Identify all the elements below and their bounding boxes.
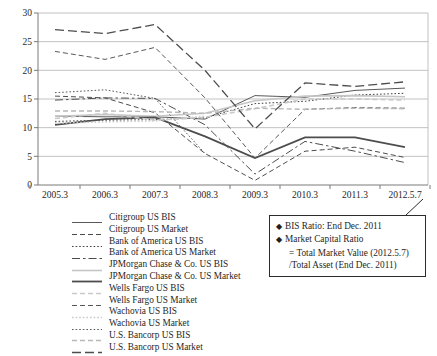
x-tick-label: 2007.3 <box>142 190 168 200</box>
annotation-line: ◆BIS Ratio: End Dec. 2011 <box>276 220 422 233</box>
legend-item: Wells Fargo US Market <box>72 295 241 307</box>
series-line-7 <box>55 47 405 158</box>
legend-item: Bank of America US Market <box>72 247 241 259</box>
legend-label: Citigroup US Market <box>109 224 188 236</box>
legend-label: Bank of America US BIS <box>109 236 204 248</box>
legend-line-sample-icon <box>72 213 102 222</box>
y-tick-label: 10 <box>23 123 33 133</box>
legend-item: Bank of America US BIS <box>72 236 241 248</box>
annotation-text: BIS Ratio: End Dec. 2011 <box>285 221 382 231</box>
legend-label: Bank of America US Market <box>109 247 216 259</box>
legend-line-sample-icon <box>72 284 102 293</box>
series-line-5 <box>55 117 405 158</box>
legend-line-sample-icon <box>72 308 102 317</box>
legend-label: U.S. Bancorp US BIS <box>109 330 190 342</box>
legend-item: Citigroup US BIS <box>72 212 241 224</box>
annotation-text: /Total Asset (End Dec. 2011) <box>289 260 397 270</box>
legend-line-sample-icon <box>72 320 102 329</box>
legend-label: U.S. Bancorp US Market <box>109 342 203 354</box>
line-chart-plot: 0510152025302005.32006.32007.32008.32009… <box>0 0 437 208</box>
legend-item: Wachovia US Market <box>72 318 241 330</box>
legend-item: U.S. Bancorp US Market <box>72 342 241 354</box>
legend-line-sample-icon <box>72 331 102 340</box>
y-tick-label: 5 <box>27 152 32 162</box>
legend-label: Wells Fargo US Market <box>109 295 197 307</box>
legend-line-sample-icon <box>72 237 102 246</box>
y-tick-label: 30 <box>23 8 33 18</box>
x-tick-label: 2010.3 <box>292 190 318 200</box>
legend-label: Citigroup US BIS <box>109 212 176 224</box>
x-tick-label: 2006.3 <box>92 190 118 200</box>
annotation-line: /Total Asset (End Dec. 2011) <box>276 259 422 271</box>
chart-legend: Citigroup US BISCitigroup US MarketBank … <box>72 212 241 354</box>
y-tick-label: 15 <box>23 94 33 104</box>
legend-line-sample-icon <box>72 225 102 234</box>
y-tick-label: 25 <box>23 37 33 47</box>
legend-label: Wells Fargo US BIS <box>109 283 185 295</box>
x-tick-label: 2009.3 <box>242 190 268 200</box>
bank-capital-ratio-figure: 0510152025302005.32006.32007.32008.32009… <box>0 0 437 356</box>
series-line-3 <box>55 98 405 174</box>
diamond-bullet-icon: ◆ <box>276 235 282 244</box>
legend-line-sample-icon <box>72 296 102 305</box>
annotation-text: = Total Market Value (2012.5.7) <box>289 248 409 258</box>
y-tick-label: 20 <box>23 66 33 76</box>
annotation-pointer-line <box>392 196 432 216</box>
diamond-bullet-icon: ◆ <box>276 222 282 231</box>
legend-item: Citigroup US Market <box>72 224 241 236</box>
legend-item: U.S. Bancorp US BIS <box>72 330 241 342</box>
legend-item: JPMorgan Chase & Co. US Market <box>72 271 241 283</box>
x-tick-label: 2008.3 <box>192 190 218 200</box>
legend-item: Wachovia US BIS <box>72 306 241 318</box>
legend-label: JPMorgan Chase & Co. US Market <box>109 271 241 283</box>
legend-label: JPMorgan Chase & Co. US BIS <box>109 259 228 271</box>
annotation-line: = Total Market Value (2012.5.7) <box>276 247 422 259</box>
legend-line-sample-icon <box>72 261 102 270</box>
legend-line-sample-icon <box>72 249 102 258</box>
annotation-box: ◆BIS Ratio: End Dec. 2011 ◆Market Capita… <box>269 215 426 277</box>
legend-label: Wachovia US BIS <box>109 306 177 318</box>
x-tick-label: 2005.3 <box>42 190 68 200</box>
legend-label: Wachovia US Market <box>109 318 189 330</box>
legend-line-sample-icon <box>72 343 102 352</box>
legend-line-sample-icon <box>72 272 102 281</box>
x-tick-label: 2011.3 <box>342 190 368 200</box>
legend-item: Wells Fargo US BIS <box>72 283 241 295</box>
annotation-text: Market Capital Ratio <box>285 234 364 244</box>
annotation-line: ◆Market Capital Ratio <box>276 233 422 246</box>
legend-item: JPMorgan Chase & Co. US BIS <box>72 259 241 271</box>
